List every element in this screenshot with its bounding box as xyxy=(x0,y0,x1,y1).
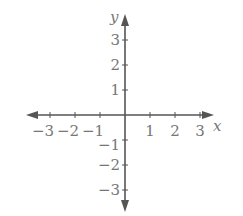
y-tick-label: −2 xyxy=(98,156,120,174)
y-axis xyxy=(121,14,129,212)
x-tick-label: −2 xyxy=(57,122,79,140)
y-tick-label: 2 xyxy=(110,56,120,74)
y-tick-label: −3 xyxy=(98,181,120,199)
x-axis xyxy=(26,111,214,119)
x-axis-label: x xyxy=(213,117,222,135)
y-axis-bottom-arrow-icon xyxy=(121,200,129,212)
y-tick-label: −1 xyxy=(98,136,120,154)
y-axis-label: y xyxy=(109,8,119,26)
x-tick-label: 1 xyxy=(145,122,155,140)
x-tick-label: −3 xyxy=(32,122,54,140)
y-tick-label: 1 xyxy=(110,81,120,99)
y-axis-top-arrow-icon xyxy=(121,14,129,26)
x-tick-label: 2 xyxy=(170,122,180,140)
x-axis-left-arrow-icon xyxy=(26,111,38,119)
coordinate-plane: −3−2−1123 −3−2−1123 x y xyxy=(0,0,243,216)
y-tick-label: 3 xyxy=(110,31,120,49)
x-tick-label: 3 xyxy=(195,122,205,140)
